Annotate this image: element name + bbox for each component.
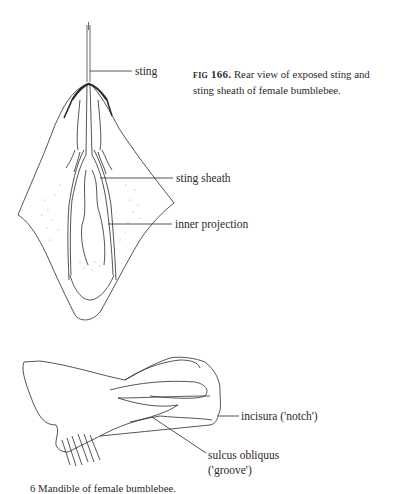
label-incisura: incisura ('notch') [241,409,318,423]
figure-167-caption-clipped: 6 Mandible of female bumblebee. [30,482,176,494]
label-sting-sheath: sting sheath [176,171,231,185]
stipple-shading [42,185,141,271]
label-inner-projection: inner projection [175,217,248,231]
label-sulcus-obliquus: sulcus obliquus [208,448,279,462]
label-sting: sting [135,64,157,78]
sulcus-leader [152,417,206,453]
figure-number: fig 166. [193,68,231,80]
mandible-figure [23,357,221,466]
label-groove: ('groove') [208,463,252,477]
figure-166-caption: fig 166. Rear view of exposed sting and … [193,66,393,98]
